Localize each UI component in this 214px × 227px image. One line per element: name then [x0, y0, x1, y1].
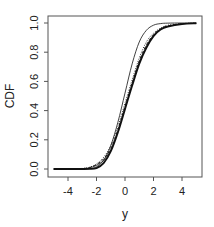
y-tick-label: 0.8 [28, 45, 40, 60]
y-axis: 0.00.20.40.60.81.0 [28, 15, 48, 176]
cdf-curve-5 [54, 23, 197, 169]
cdf-chart: -4-2024 0.00.20.40.60.81.0 y CDF [0, 0, 214, 227]
x-tick-label: 4 [179, 185, 185, 197]
x-tick-label: 0 [122, 185, 128, 197]
y-tick-label: 0.4 [28, 103, 40, 118]
y-axis-title: CDF [3, 84, 17, 109]
y-tick-label: 0.0 [28, 161, 40, 176]
x-axis: -4-2024 [63, 177, 185, 197]
y-tick-label: 1.0 [28, 15, 40, 30]
x-axis-title: y [122, 207, 128, 221]
cdf-curve-3 [54, 23, 197, 169]
x-tick-label: 2 [150, 185, 156, 197]
cdf-curve-2 [54, 23, 197, 169]
y-tick-label: 0.2 [28, 132, 40, 147]
cdf-curve-1 [54, 23, 197, 169]
cdf-curves [54, 23, 197, 169]
plot-frame [48, 16, 202, 177]
x-tick-label: -2 [92, 185, 102, 197]
cdf-curve-4 [54, 23, 197, 169]
y-tick-label: 0.6 [28, 74, 40, 89]
x-tick-label: -4 [63, 185, 73, 197]
